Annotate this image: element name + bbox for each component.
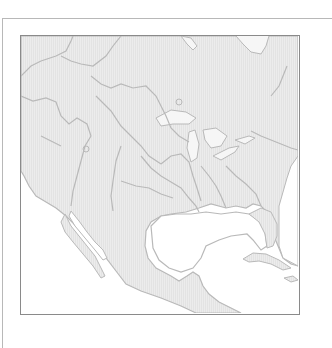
north-america-watershed-map — [21, 36, 298, 313]
map-frame — [20, 35, 300, 315]
hispaniola — [284, 276, 298, 282]
gulf-of-mexico — [151, 212, 267, 272]
